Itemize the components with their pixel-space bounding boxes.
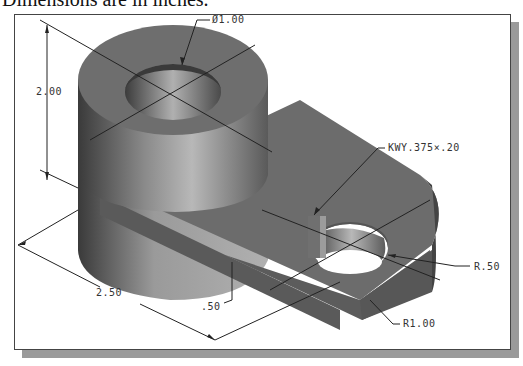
label-height: 2.00 <box>36 86 62 97</box>
label-outer-radius: R1.00 <box>403 318 436 329</box>
label-end-radius: R.50 <box>474 261 500 272</box>
label-hole-diameter: Ø1.00 <box>212 14 245 25</box>
part-body <box>78 25 439 330</box>
label-base-thickness: .50 <box>201 301 221 312</box>
isometric-part-drawing: Ø1.00 2.00 KWY.375×.20 R.50 2.50 .50 R1.… <box>0 0 523 366</box>
label-length: 2.50 <box>96 287 122 298</box>
label-keyway: KWY.375×.20 <box>388 142 460 153</box>
